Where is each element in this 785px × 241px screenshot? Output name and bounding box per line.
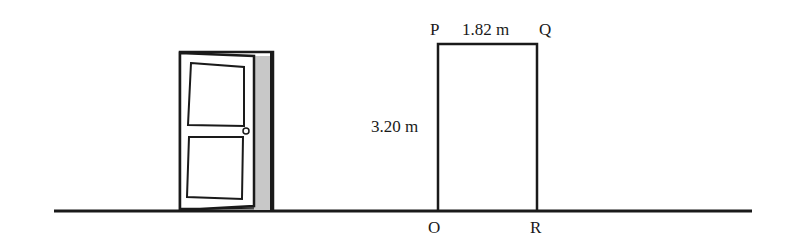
door-knob-icon [243, 128, 249, 134]
label-o: O [428, 219, 440, 236]
door-shadow [254, 56, 271, 210]
label-width: 1.82 m [462, 21, 509, 38]
label-height: 3.20 m [371, 118, 418, 135]
label-r: R [530, 219, 541, 236]
label-q: Q [539, 21, 551, 38]
rectangle-opqr [438, 44, 537, 211]
label-p: P [430, 21, 439, 38]
door [180, 52, 273, 211]
